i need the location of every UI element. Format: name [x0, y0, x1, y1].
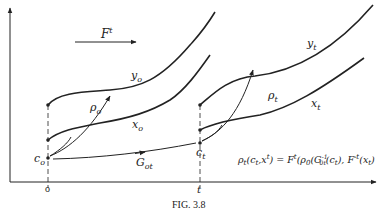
label-rho0: ρo — [89, 101, 101, 116]
curve-yt — [200, 5, 373, 105]
map-rho0 — [50, 96, 110, 156]
figure-3-8: Ft yo xo yt xt co ct Got ρo ρt ρt(ct,xt)… — [0, 0, 380, 216]
figure-caption: FIG. 3.8 — [172, 199, 206, 210]
label-G0t: Got — [136, 156, 154, 171]
label-xt: xt — [311, 97, 321, 112]
label-ct: ct — [196, 146, 206, 161]
label-c0: co — [34, 152, 45, 167]
curve-y0 — [48, 12, 215, 105]
formula: ρt(ct,xt) = Ft(ρ0(G-10t(ct), F-t(xt) — [237, 153, 375, 167]
map-rhot — [202, 70, 253, 141]
curve-x0 — [48, 55, 210, 140]
curve-xt — [200, 58, 364, 130]
tick-origin: o — [45, 183, 50, 194]
map-G0t — [53, 143, 196, 159]
flow-label: Ft — [100, 26, 113, 41]
label-y0: yo — [130, 69, 142, 84]
label-yt: yt — [306, 37, 317, 52]
label-x0: xo — [132, 118, 143, 133]
tick-t: t — [197, 184, 202, 195]
label-rhot: ρt — [267, 89, 278, 104]
